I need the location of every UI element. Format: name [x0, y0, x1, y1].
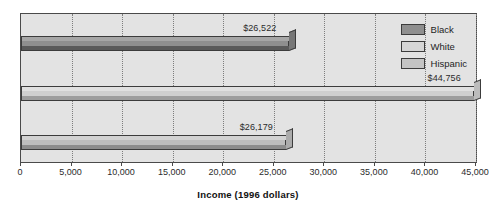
- bar-highlight: [22, 37, 290, 41]
- x-tick-label-15000: 15,000: [158, 167, 186, 177]
- x-tick-mark-15000: [172, 163, 173, 166]
- x-tick-mark-5000: [71, 163, 72, 166]
- x-tick-mark-10000: [121, 163, 122, 166]
- x-tick-mark-45000: [475, 163, 476, 166]
- bar-body: [21, 86, 474, 101]
- legend-label-black: Black: [431, 24, 454, 35]
- value-label-black: $26,522: [243, 23, 276, 33]
- x-tick-label-5000: 5,000: [59, 167, 82, 177]
- x-tick-label-30000: 30,000: [310, 167, 338, 177]
- value-label-hispanic: $26,179: [240, 122, 273, 132]
- x-axis: 05,00010,00015,00020,00025,00030,00035,0…: [20, 163, 477, 179]
- plot-area: $26,522$44,756$26,179 Black White Hispan…: [20, 13, 477, 163]
- bar-end-cap: [289, 29, 296, 51]
- bar-end-cap: [286, 128, 293, 150]
- x-tick-label-35000: 35,000: [360, 167, 388, 177]
- x-tick-label-45000: 45,000: [461, 167, 489, 177]
- legend-swatch-white-icon: [401, 41, 425, 52]
- bar-body: [21, 135, 286, 150]
- x-tick-mark-0: [20, 163, 21, 166]
- bar-black[interactable]: [21, 36, 289, 51]
- legend-item-black[interactable]: Black: [401, 22, 467, 37]
- x-tick-label-40000: 40,000: [411, 167, 439, 177]
- bar-body: [21, 36, 289, 51]
- x-tick-label-25000: 25,000: [259, 167, 287, 177]
- x-axis-title: Income (1996 dollars): [0, 189, 496, 200]
- x-tick-label-0: 0: [17, 167, 22, 177]
- x-tick-mark-35000: [374, 163, 375, 166]
- bar-end-cap: [474, 79, 481, 101]
- bar-shadow: [22, 96, 475, 100]
- legend-item-white[interactable]: White: [401, 39, 467, 54]
- bar-hispanic[interactable]: [21, 135, 286, 150]
- bar-shadow: [22, 145, 287, 149]
- x-tick-mark-20000: [222, 163, 223, 166]
- bar-white[interactable]: [21, 86, 474, 101]
- legend-label-white: White: [431, 41, 455, 52]
- legend-label-hispanic: Hispanic: [431, 58, 467, 69]
- x-tick-mark-40000: [424, 163, 425, 166]
- x-tick-mark-25000: [273, 163, 274, 166]
- x-tick-label-10000: 10,000: [107, 167, 135, 177]
- income-bar-chart: $26,522$44,756$26,179 Black White Hispan…: [0, 0, 496, 213]
- x-tick-mark-30000: [323, 163, 324, 166]
- legend-swatch-hispanic-icon: [401, 58, 425, 69]
- bar-highlight: [22, 87, 475, 91]
- legend-swatch-black-icon: [401, 24, 425, 35]
- bar-shadow: [22, 46, 290, 50]
- x-tick-label-20000: 20,000: [208, 167, 236, 177]
- bar-highlight: [22, 136, 287, 140]
- chart-legend: Black White Hispanic: [398, 20, 470, 75]
- legend-item-hispanic[interactable]: Hispanic: [401, 56, 467, 71]
